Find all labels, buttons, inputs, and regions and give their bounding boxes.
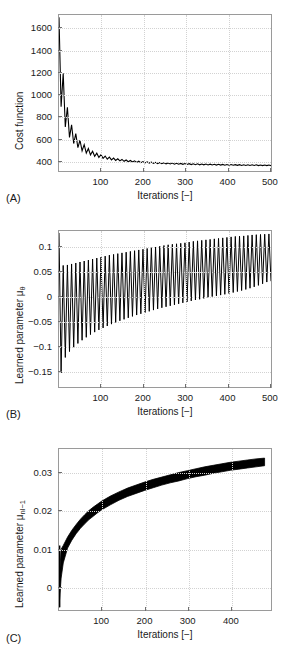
gridline-vertical bbox=[271, 231, 272, 387]
x-tick bbox=[143, 168, 144, 172]
y-tick-label: 0 bbox=[0, 290, 52, 301]
gridline-vertical bbox=[186, 15, 187, 171]
x-tick-label: 200 bbox=[135, 392, 151, 403]
x-tick bbox=[270, 168, 271, 172]
y-tick bbox=[58, 296, 62, 297]
gridline-horizontal bbox=[59, 28, 271, 29]
y-axis-title-c-subscript: nl−1 bbox=[18, 500, 27, 514]
y-tick bbox=[58, 27, 62, 28]
y-tick-label: 600 bbox=[0, 133, 52, 144]
y-tick-label: 0 bbox=[0, 582, 52, 593]
x-tick-label: 200 bbox=[135, 176, 151, 187]
gridline-horizontal bbox=[59, 322, 271, 323]
x-tick bbox=[188, 607, 189, 611]
x-tick-label: 300 bbox=[177, 392, 193, 403]
x-tick-label: 200 bbox=[137, 615, 153, 626]
x-axis-title-b: Iterations [−] bbox=[58, 406, 272, 417]
x-tick bbox=[185, 384, 186, 388]
y-tick bbox=[58, 271, 62, 272]
x-tick bbox=[100, 168, 101, 172]
panel-tag-b: (B) bbox=[6, 408, 21, 420]
y-tick bbox=[58, 139, 62, 140]
x-tick bbox=[100, 384, 101, 388]
x-tick-label: 400 bbox=[223, 615, 239, 626]
mu-theta-curve bbox=[59, 231, 271, 387]
y-tick bbox=[58, 116, 62, 117]
gridline-horizontal bbox=[59, 51, 271, 52]
y-tick-label: 0.1 bbox=[0, 240, 52, 251]
x-tick bbox=[185, 168, 186, 172]
y-axis-title-b-text: Learned parameter μ bbox=[14, 290, 25, 384]
x-tick bbox=[145, 607, 146, 611]
gridline-vertical bbox=[229, 15, 230, 171]
y-tick bbox=[58, 549, 62, 550]
y-tick bbox=[58, 346, 62, 347]
gridline-vertical bbox=[144, 231, 145, 387]
y-axis-title-a-text: Cost function bbox=[14, 92, 25, 150]
gridline-horizontal bbox=[59, 347, 271, 348]
y-tick-label: 1000 bbox=[0, 89, 52, 100]
x-tick-label: 500 bbox=[262, 392, 278, 403]
y-tick-label: 1200 bbox=[0, 66, 52, 77]
plot-area-c bbox=[58, 448, 272, 611]
x-tick bbox=[228, 168, 229, 172]
y-tick-label: 400 bbox=[0, 155, 52, 166]
y-tick bbox=[58, 587, 62, 588]
x-axis-title-a: Iterations [−] bbox=[58, 190, 272, 201]
x-tick-label: 400 bbox=[220, 176, 236, 187]
x-tick-label: 300 bbox=[177, 176, 193, 187]
gridline-vertical bbox=[101, 231, 102, 387]
gridline-horizontal bbox=[59, 511, 271, 512]
gridline-horizontal bbox=[59, 272, 271, 273]
y-tick bbox=[58, 50, 62, 51]
y-axis-title-c-text: Learned parameter μ bbox=[14, 514, 25, 608]
gridline-horizontal bbox=[59, 550, 271, 551]
gridline-horizontal bbox=[59, 95, 271, 96]
y-tick-label: 0.05 bbox=[0, 265, 52, 276]
y-tick bbox=[58, 161, 62, 162]
y-tick-label: 0.01 bbox=[0, 543, 52, 554]
y-tick bbox=[58, 510, 62, 511]
y-tick-label: 800 bbox=[0, 111, 52, 122]
plot-area-b bbox=[58, 230, 272, 388]
gridline-horizontal bbox=[59, 372, 271, 373]
plot-area-a bbox=[58, 14, 272, 172]
y-tick bbox=[58, 321, 62, 322]
y-tick-label: 1400 bbox=[0, 44, 52, 55]
gridline-vertical bbox=[101, 15, 102, 171]
gridline-vertical bbox=[229, 231, 230, 387]
y-tick bbox=[58, 94, 62, 95]
gridline-horizontal bbox=[59, 297, 271, 298]
x-tick-label: 100 bbox=[92, 176, 108, 187]
gridline-vertical bbox=[186, 231, 187, 387]
x-tick-label: 300 bbox=[180, 615, 196, 626]
cost-function-curve bbox=[59, 15, 271, 171]
gridline-vertical bbox=[144, 15, 145, 171]
y-tick-label: −0.1 bbox=[0, 340, 52, 351]
gridline-horizontal bbox=[59, 162, 271, 163]
gridline-horizontal bbox=[59, 140, 271, 141]
y-tick bbox=[58, 246, 62, 247]
gridline-horizontal bbox=[59, 588, 271, 589]
gridline-horizontal bbox=[59, 247, 271, 248]
x-tick-label: 400 bbox=[220, 392, 236, 403]
x-tick bbox=[231, 607, 232, 611]
y-tick bbox=[58, 371, 62, 372]
x-tick bbox=[228, 384, 229, 388]
x-tick bbox=[143, 384, 144, 388]
y-tick bbox=[58, 472, 62, 473]
figure-panels-abc: 1002003004005004006008001000120014001600… bbox=[0, 0, 282, 655]
gridline-vertical bbox=[271, 15, 272, 171]
panel-c: 1002003004000.030.020.010 Iterations [−]… bbox=[0, 436, 282, 655]
y-tick bbox=[58, 72, 62, 73]
y-tick-label: 0.03 bbox=[0, 466, 52, 477]
y-tick-label: −0.05 bbox=[0, 315, 52, 326]
y-axis-title-c: Learned parameter μnl−1 bbox=[14, 500, 25, 608]
panel-a: 1002003004005004006008001000120014001600… bbox=[0, 0, 282, 218]
x-axis-title-c: Iterations [−] bbox=[58, 629, 272, 640]
x-tick-label: 100 bbox=[92, 392, 108, 403]
x-tick bbox=[270, 384, 271, 388]
gridline-horizontal bbox=[59, 117, 271, 118]
panel-tag-a: (A) bbox=[6, 192, 21, 204]
gridline-horizontal bbox=[59, 73, 271, 74]
